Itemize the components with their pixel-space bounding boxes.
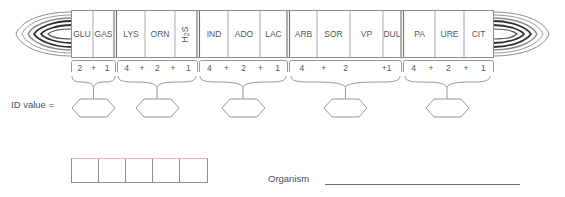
id-value-label: ID value = (11, 99, 54, 110)
group1-op-0: + (91, 63, 96, 73)
code-box[interactable] (99, 159, 126, 182)
group2-val-2: 1 (186, 63, 191, 73)
organism-label: Organism (268, 173, 309, 184)
code-box[interactable] (180, 159, 207, 182)
group-values-1: 2 + 1 (73, 61, 114, 75)
id-value-hexagon-2 (136, 99, 179, 117)
group-values-2: 4 + 2 + 1 (119, 61, 196, 75)
group2-op-0: + (140, 63, 145, 73)
group2-val-0: 4 (124, 63, 129, 73)
group3-op-1: + (258, 63, 263, 73)
api-test-strip: GLU GAS LYS ORN H2S IND ADO LAC ARB SOR (0, 0, 565, 72)
cell-dividers (93, 11, 464, 57)
group-values-4: 4 + 2 +1 (291, 61, 400, 75)
group3-val-0: 4 (207, 63, 212, 73)
id-value-hexagon-3 (222, 99, 265, 117)
strip-left-cap (16, 12, 72, 56)
strip-right-cap (493, 12, 549, 56)
braces-and-hexagons (0, 74, 565, 124)
id-value-hexagon-5 (426, 99, 469, 117)
id-value-hexagon-4 (324, 99, 367, 117)
group4-op-0: + (321, 63, 326, 73)
brace-2 (118, 76, 196, 87)
group5-op-0: + (429, 63, 434, 73)
group3-val-2: 1 (275, 63, 280, 73)
group-dividers (114, 11, 404, 57)
group3-op-0: + (224, 63, 229, 73)
group4-val-0: 4 (299, 63, 304, 73)
id-value-hexagon-1 (72, 99, 115, 117)
group4-val-2: +1 (382, 63, 392, 73)
group3-val-1: 2 (241, 63, 246, 73)
group5-val-2: 1 (481, 63, 486, 73)
group1-val-0: 2 (77, 63, 82, 73)
group1-val-1: 1 (105, 63, 110, 73)
code-number-boxes[interactable] (71, 158, 208, 183)
brace-5 (405, 76, 490, 87)
code-box[interactable] (126, 159, 153, 182)
group-values-3: 4 + 2 + 1 (201, 61, 286, 75)
group5-val-1: 2 (446, 63, 451, 73)
brace-4 (291, 76, 400, 87)
group5-val-0: 4 (411, 63, 416, 73)
group4-val-1: 2 (343, 63, 348, 73)
code-box[interactable] (72, 159, 99, 182)
brace-3 (200, 76, 286, 87)
group2-op-1: + (170, 63, 175, 73)
group-values-5: 4 + 2 + 1 (405, 61, 492, 75)
group2-val-1: 2 (155, 63, 160, 73)
group5-op-1: + (463, 63, 468, 73)
worksheet: GLU GAS LYS ORN H2S IND ADO LAC ARB SOR (0, 0, 565, 197)
brace-1 (72, 76, 115, 87)
organism-answer-line[interactable] (325, 184, 520, 185)
code-box[interactable] (153, 159, 180, 182)
